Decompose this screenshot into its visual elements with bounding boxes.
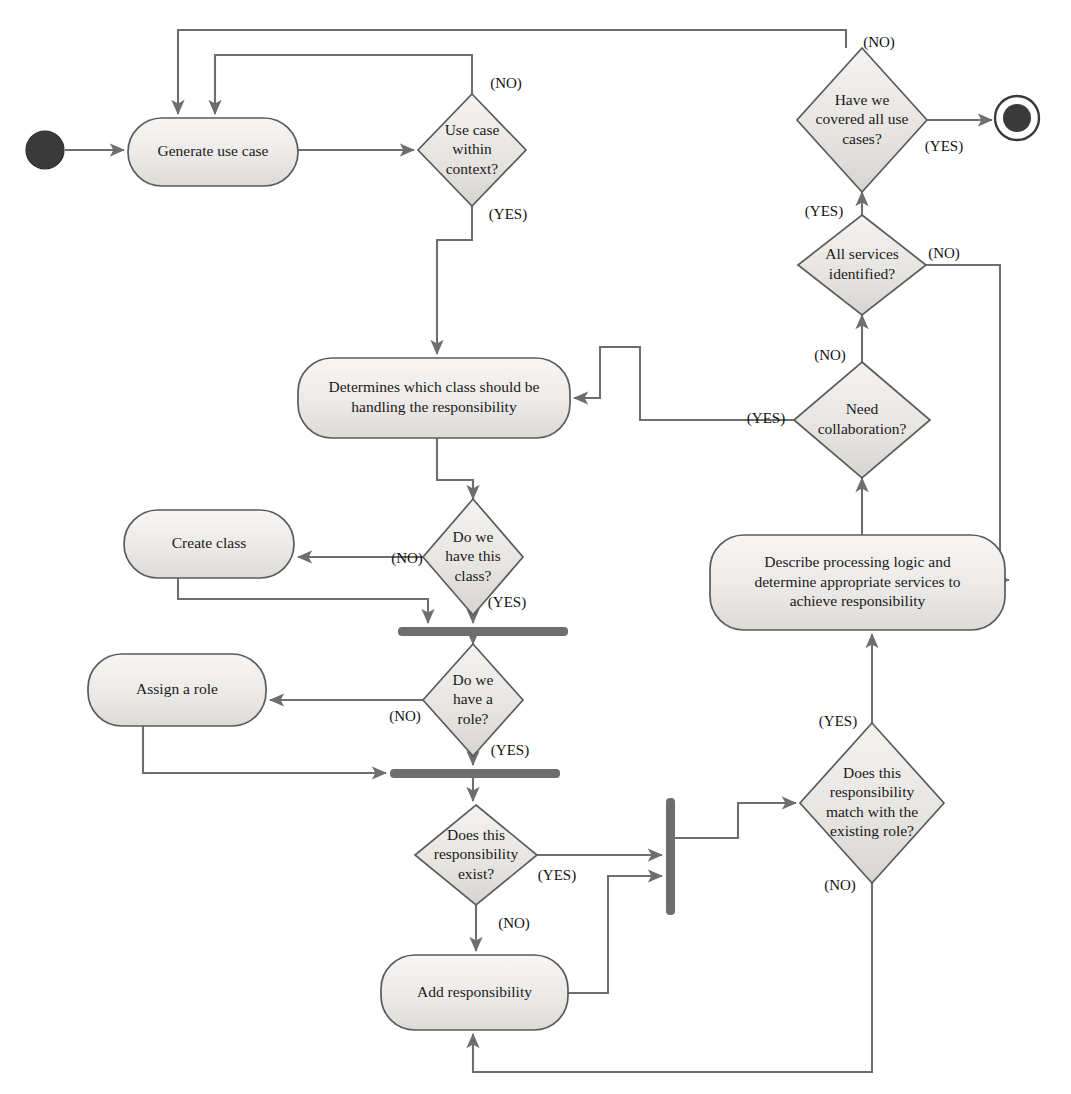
guard-label-havearole-no: (NO) bbox=[389, 708, 421, 725]
node-label-within: Use casewithincontext? bbox=[445, 120, 500, 176]
node-label-generate: Generate use case bbox=[157, 142, 268, 159]
node-havearole[interactable]: Do wehave arole? bbox=[423, 644, 523, 756]
guard-label-respmatch-no: (NO) bbox=[824, 877, 856, 894]
activity-diagram-canvas: Generate use caseUse casewithincontext?H… bbox=[0, 0, 1071, 1094]
node-bar3[interactable] bbox=[666, 798, 675, 915]
node-bar1[interactable] bbox=[398, 627, 568, 636]
final-node-dot bbox=[1003, 104, 1031, 132]
guard-label-allservices-no: (NO) bbox=[928, 245, 960, 262]
join-bar-shape bbox=[390, 769, 560, 778]
node-label-assignrole: Assign a role bbox=[136, 680, 218, 697]
node-label-addresp: Add responsibility bbox=[417, 982, 532, 999]
node-generate[interactable]: Generate use case bbox=[128, 118, 298, 186]
edge-needcollab-to-determines bbox=[574, 347, 794, 420]
guard-label-within-yes: (YES) bbox=[489, 206, 527, 223]
node-within[interactable]: Use casewithincontext? bbox=[418, 94, 526, 206]
node-label-createclass: Create class bbox=[172, 534, 246, 551]
guard-label-havethisclass-no: (NO) bbox=[391, 550, 423, 567]
node-assignrole[interactable]: Assign a role bbox=[88, 654, 266, 726]
node-createclass[interactable]: Create class bbox=[124, 510, 294, 578]
guard-label-needcollab-yes: (YES) bbox=[747, 410, 785, 427]
edge-within-to-determines bbox=[437, 206, 472, 354]
node-respexist[interactable]: Does thisresponsibilityexist? bbox=[415, 805, 537, 905]
edge-assignrole-to-bar2 bbox=[143, 726, 386, 773]
edge-createclass-to-bar1 bbox=[178, 578, 428, 623]
edge-covered-to-generate bbox=[178, 30, 846, 114]
edge-bar3-to-respmatch bbox=[675, 803, 796, 838]
nodes-layer: Generate use caseUse casewithincontext?H… bbox=[26, 48, 1039, 1030]
node-allservices[interactable]: All servicesidentified? bbox=[798, 215, 926, 315]
guard-label-respexist-yes: (YES) bbox=[538, 867, 576, 884]
node-bar2[interactable] bbox=[390, 769, 560, 778]
guard-label-needcollab-no: (NO) bbox=[814, 347, 846, 364]
node-label-havearole: Do wehave arole? bbox=[453, 670, 494, 726]
edge-determines-to-havethisclass bbox=[437, 438, 473, 499]
guard-label-respmatch-yes: (YES) bbox=[819, 713, 857, 730]
edge-within-to-generate bbox=[215, 55, 472, 114]
node-covered[interactable]: Have wecovered all usecases? bbox=[797, 48, 927, 192]
edge-allservices-to-describe bbox=[926, 265, 1009, 580]
guard-label-havethisclass-yes: (YES) bbox=[488, 594, 526, 611]
edge-addresp-to-bar3 bbox=[568, 876, 662, 993]
guard-label-covered-yes: (YES) bbox=[925, 138, 963, 155]
node-describe[interactable]: Describe processing logic anddetermine a… bbox=[710, 535, 1005, 630]
fork-bar-shape bbox=[666, 798, 675, 915]
node-determines[interactable]: Determines which class should behandling… bbox=[298, 358, 570, 438]
node-start[interactable] bbox=[26, 131, 64, 169]
uml-activity-diagram: Generate use caseUse casewithincontext?H… bbox=[0, 0, 1071, 1094]
node-addresp[interactable]: Add responsibility bbox=[381, 955, 568, 1030]
guard-label-covered-no: (NO) bbox=[863, 34, 895, 51]
initial-node-dot bbox=[26, 131, 64, 169]
guard-label-allservices-yes: (YES) bbox=[805, 203, 843, 220]
guard-label-respexist-no: (NO) bbox=[498, 915, 530, 932]
join-bar-shape bbox=[398, 627, 568, 636]
guard-label-within-no: (NO) bbox=[490, 75, 522, 92]
node-respmatch[interactable]: Does thisresponsibilitymatch with theexi… bbox=[800, 723, 944, 883]
node-needcollab[interactable]: Needcollaboration? bbox=[794, 362, 930, 478]
node-end[interactable] bbox=[995, 96, 1039, 140]
guard-label-havearole-yes: (YES) bbox=[491, 742, 529, 759]
